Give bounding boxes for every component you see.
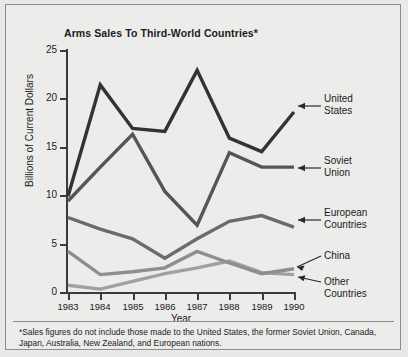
x-tick-mark-1988 <box>229 294 231 300</box>
annotation-united-states: United States <box>324 93 353 116</box>
y-tick-mark-25 <box>60 50 66 52</box>
x-tick-mark-1986 <box>165 294 167 300</box>
y-tick-mark-20 <box>60 98 66 100</box>
annotation-european-countries-line2: Countries <box>324 219 367 231</box>
x-tick-mark-1983 <box>68 294 70 300</box>
series-line-united-states <box>68 70 294 196</box>
x-tick-mark-1990 <box>294 294 296 300</box>
annotation-soviet-union-line2: Union <box>324 167 352 179</box>
annotation-european-countries: European Countries <box>324 207 367 230</box>
series-line-china <box>68 251 294 274</box>
series-line-soviet-union <box>68 134 294 225</box>
x-tick-mark-1984 <box>100 294 102 300</box>
x-tick-mark-1985 <box>133 294 135 300</box>
chart-footnote: *Sales figures do not include those made… <box>19 327 389 349</box>
arrow-head-united-states <box>298 103 305 109</box>
annotation-china-line1: China <box>324 250 350 262</box>
annotation-other-countries-line2: Countries <box>324 288 367 300</box>
y-tick-label-25: 25 <box>31 44 57 55</box>
y-tick-mark-0 <box>60 292 66 294</box>
y-axis-line <box>66 49 68 294</box>
x-axis-label: Year <box>66 313 296 324</box>
footnote-divider <box>13 321 394 322</box>
y-tick-mark-15 <box>60 147 66 149</box>
y-tick-label-5: 5 <box>31 238 57 249</box>
annotation-other-countries: Other Countries <box>324 276 367 299</box>
arrow-line-china <box>297 256 321 267</box>
chart-title: Arms Sales To Third-World Countries* <box>6 27 316 39</box>
x-tick-label-1990: 1990 <box>274 301 314 312</box>
arrow-head-soviet-union <box>298 165 305 171</box>
arrow-head-other-countries <box>298 275 305 281</box>
arrow-head-european-countries <box>298 217 305 223</box>
chart-figure: Arms Sales To Third-World Countries* 25 … <box>5 4 401 350</box>
annotation-soviet-union-line1: Soviet <box>324 155 352 167</box>
series-line-european-countries <box>68 216 294 259</box>
y-tick-label-15: 15 <box>31 141 57 152</box>
arrow-line-other-countries <box>298 277 321 282</box>
y-tick-label-0: 0 <box>31 286 57 297</box>
annotation-united-states-line1: United <box>324 93 353 105</box>
annotation-united-states-line2: States <box>324 105 353 117</box>
arrow-head-china <box>297 265 305 271</box>
y-axis-label: Billions of Current Dollars <box>24 46 35 216</box>
annotation-european-countries-line1: European <box>324 207 367 219</box>
x-tick-mark-1987 <box>197 294 199 300</box>
y-tick-label-20: 20 <box>31 92 57 103</box>
annotation-china: China <box>324 250 350 262</box>
x-tick-mark-1989 <box>262 294 264 300</box>
annotation-other-countries-line1: Other <box>324 276 367 288</box>
y-tick-label-10: 10 <box>31 189 57 200</box>
y-tick-mark-10 <box>60 195 66 197</box>
y-tick-mark-5 <box>60 244 66 246</box>
annotation-soviet-union: Soviet Union <box>324 155 352 178</box>
series-line-other-countries <box>68 261 294 289</box>
